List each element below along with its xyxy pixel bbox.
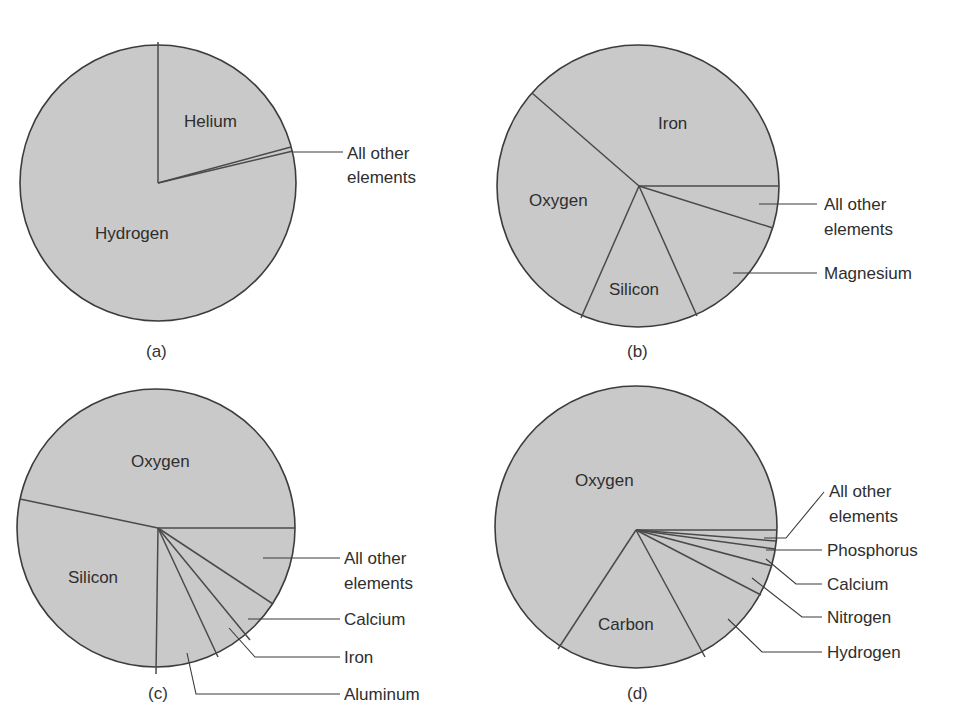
pie-d-leader-hydrogen [728, 619, 822, 652]
pie-chart-a: Helium Hydrogen All other elements (a) [20, 42, 416, 361]
pie-a-label-helium: Helium [184, 112, 237, 131]
pie-c-label-calcium: Calcium [344, 610, 405, 629]
pie-d-label-oxygen: Oxygen [575, 471, 634, 490]
pie-c-label-iron: Iron [344, 648, 373, 667]
pie-b-label-oxygen: Oxygen [529, 191, 588, 210]
pie-chart-d: Oxygen Carbon All other elements Phospho… [495, 386, 918, 703]
pie-a-label-others-line1: All other [347, 144, 410, 163]
pie-c-label-oxygen: Oxygen [131, 452, 190, 471]
pie-b-label-iron: Iron [658, 114, 687, 133]
pie-b-label-others-line1: All other [824, 195, 887, 214]
pie-a-label-hydrogen: Hydrogen [95, 224, 169, 243]
pie-c-label-silicon: Silicon [68, 568, 118, 587]
pie-d-label-nitrogen: Nitrogen [827, 608, 891, 627]
pie-b-caption: (b) [627, 342, 648, 361]
pie-a-caption: (a) [146, 342, 167, 361]
pie-b-label-silicon: Silicon [609, 280, 659, 299]
pie-d-label-calcium: Calcium [827, 575, 888, 594]
pie-d-label-hydrogen: Hydrogen [827, 643, 901, 662]
pie-d-caption: (d) [627, 684, 648, 703]
pie-c-caption: (c) [148, 684, 168, 703]
pie-d-label-carbon: Carbon [598, 615, 654, 634]
pie-d-label-others-line1: All other [829, 482, 892, 501]
figure-canvas: Helium Hydrogen All other elements (a) I… [0, 0, 953, 727]
pie-chart-c: Oxygen Silicon All other elements Calciu… [17, 389, 420, 704]
pie-c-label-others-line2: elements [344, 574, 413, 593]
pie-chart-b: Iron Oxygen Silicon All other elements M… [497, 45, 912, 361]
pie-b-label-others-line2: elements [824, 220, 893, 239]
pie-c-leader-aluminum [187, 653, 340, 694]
pie-d-label-phosphorus: Phosphorus [827, 541, 918, 560]
pie-b-label-magnesium: Magnesium [824, 264, 912, 283]
pie-d-leader-calcium [766, 559, 822, 584]
pie-d-label-others-line2: elements [829, 507, 898, 526]
pie-a-label-others-line2: elements [347, 168, 416, 187]
pie-c-label-others-line1: All other [344, 549, 407, 568]
pie-c-label-aluminum: Aluminum [344, 685, 420, 704]
